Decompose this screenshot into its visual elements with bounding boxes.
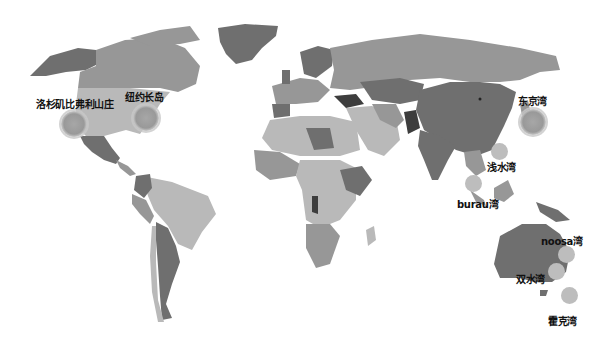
marker-repulse-bay[interactable] [491,143,508,160]
marker-twin-waters[interactable] [548,263,565,280]
region-scandinavia[interactable] [300,46,334,78]
label-ny: 纽约长岛 [125,89,164,104]
marker-burau[interactable] [465,175,482,192]
label-la: 洛杉矶比弗利山庄 [36,96,114,111]
marker-noosa[interactable] [558,246,575,263]
marker-ny[interactable] [133,105,159,131]
region-turkey-caucasus[interactable] [334,94,364,108]
label-tokyo: 东京湾 [518,93,547,108]
region-tasmania[interactable] [540,290,548,296]
region-europe-west[interactable] [272,78,330,104]
label-burau: burau湾 [457,196,498,211]
region-mexico[interactable] [80,136,120,164]
region-new-guinea[interactable] [536,202,570,222]
marker-la[interactable] [61,111,87,137]
label-hawke-bay: 霍克湾 [548,313,577,328]
region-central-america[interactable] [116,160,136,176]
label-noosa: noosa湾 [541,233,583,248]
region-greenland[interactable] [218,24,278,64]
region-iberia[interactable] [272,104,290,118]
marker-hawke-bay[interactable] [561,287,578,304]
capital-dot [479,98,482,101]
region-se-asia[interactable] [464,150,486,176]
marker-tokyo[interactable] [520,109,546,135]
region-south-africa[interactable] [306,224,340,268]
region-central-asia[interactable] [360,78,424,104]
region-canada[interactable] [78,38,200,92]
label-twin-waters: 双水湾 [516,271,545,286]
label-repulse-bay: 浅水湾 [487,159,516,174]
region-congo-dark[interactable] [312,196,318,214]
region-uk[interactable] [282,70,290,84]
region-madagascar[interactable] [366,226,376,246]
